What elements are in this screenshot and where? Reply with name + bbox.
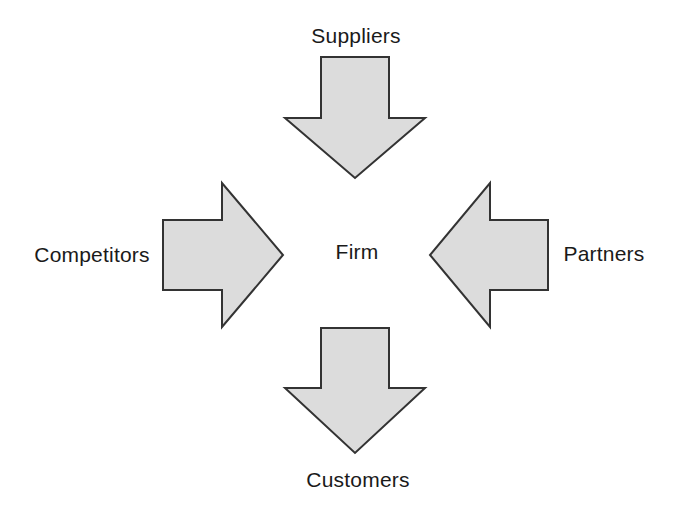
- firm-label: Firm: [336, 241, 379, 262]
- arrow-right-competitors-icon: [163, 183, 283, 327]
- arrow-down-suppliers-icon: [285, 57, 425, 178]
- arrow-left-partners-icon: [430, 183, 548, 327]
- suppliers-label: Suppliers: [311, 25, 400, 46]
- firm-environment-diagram: Suppliers Competitors Firm Partners Cust…: [0, 0, 673, 509]
- partners-label: Partners: [564, 243, 645, 264]
- competitors-label: Competitors: [34, 244, 149, 265]
- customers-label: Customers: [306, 469, 409, 490]
- arrow-down-customers-icon: [285, 328, 425, 453]
